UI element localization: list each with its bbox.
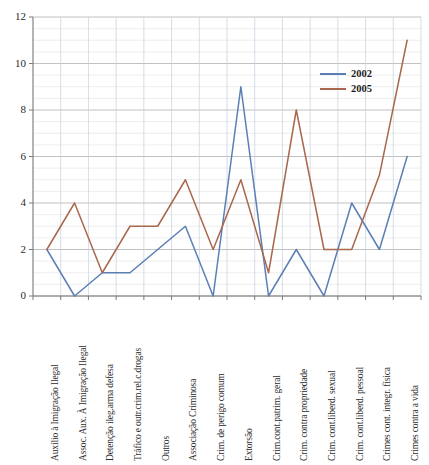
y-tick-label: 2 — [4, 244, 26, 255]
y-tick-label: 8 — [4, 104, 26, 115]
legend-item: 2002 — [320, 66, 372, 81]
y-tick-label: 10 — [4, 58, 26, 69]
legend-swatch — [320, 73, 346, 75]
legend-item: 2005 — [320, 81, 372, 96]
chart-legend: 20022005 — [320, 66, 372, 96]
y-tick-label: 6 — [4, 151, 26, 162]
y-tick-label: 0 — [4, 290, 26, 301]
y-tick-label: 4 — [4, 197, 26, 208]
legend-label: 2005 — [351, 84, 372, 94]
y-tick-label: 12 — [4, 11, 26, 22]
legend-label: 2002 — [351, 69, 372, 79]
legend-swatch — [320, 88, 346, 90]
line-chart: 024681012 Auxílio à Imigração IlegalAsso… — [0, 0, 429, 465]
